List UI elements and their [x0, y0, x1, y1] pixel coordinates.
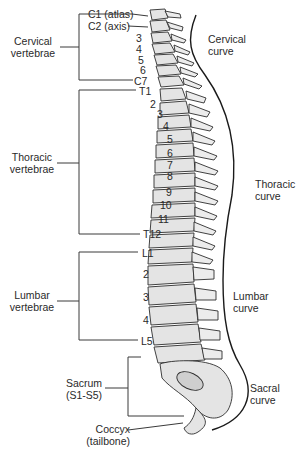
label-coccyx: Coccyx (tailbone): [80, 423, 130, 447]
label-t8: 8: [167, 170, 173, 182]
label-thoracic-vertebrae: Thoracic vertebrae: [4, 151, 60, 175]
label-sacral-curve: Sacral curve: [250, 382, 280, 406]
label-t9: 9: [166, 186, 172, 198]
label-lumbar-curve: Lumbar curve: [233, 290, 269, 314]
label-cervical-vertebrae: Cervical vertebrae: [4, 35, 62, 59]
label-t12: T12: [143, 228, 161, 240]
label-l4: 4: [143, 314, 149, 326]
label-l3: 3: [143, 291, 149, 303]
label-t6: 6: [167, 147, 173, 159]
label-t11: 11: [158, 213, 169, 225]
label-cervical-curve: Cervical curve: [208, 33, 246, 57]
label-sacrum: Sacrum (S1-S5): [62, 377, 106, 401]
label-thoracic-curve: Thoracic curve: [255, 178, 295, 202]
label-t10: 10: [160, 199, 172, 211]
label-lumbar-vertebrae: Lumbar vertebrae: [4, 289, 60, 313]
label-c1: C1 (atlas): [88, 8, 134, 20]
label-l5: L5: [141, 335, 153, 347]
label-l2: 2: [143, 268, 149, 280]
label-t4: 4: [163, 120, 169, 132]
label-l1: L1: [142, 247, 154, 259]
label-t5: 5: [167, 133, 173, 145]
label-t3: 3: [157, 108, 163, 120]
label-t1: T1: [139, 85, 151, 97]
label-c2: C2 (axis): [88, 20, 130, 32]
label-t2: 2: [150, 98, 156, 110]
